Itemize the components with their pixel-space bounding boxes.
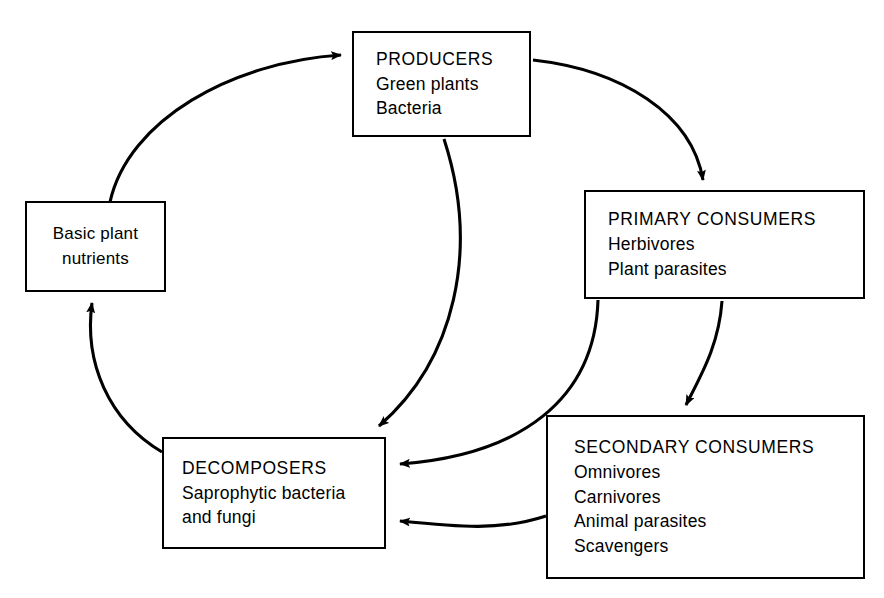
- node-secondary-consumers-line-3: Carnivores: [574, 485, 855, 510]
- node-primary-consumers-line-3: Plant parasites: [608, 257, 855, 282]
- node-primary-consumers: PRIMARY CONSUMERS Herbivores Plant paras…: [584, 190, 865, 299]
- node-secondary-consumers-lines: SECONDARY CONSUMERS Omnivores Carnivores…: [548, 435, 863, 559]
- node-decomposers-line-3: and fungi: [182, 505, 376, 530]
- node-basic-plant-nutrients: Basic plant nutrients: [25, 201, 166, 292]
- node-primary-consumers-line-1: PRIMARY CONSUMERS: [608, 207, 855, 232]
- node-decomposers-line-2: Saprophytic bacteria: [182, 481, 376, 506]
- node-producers-lines: PRODUCERS Green plants Bacteria: [354, 47, 529, 122]
- node-basic-plant-nutrients-line-1: Basic plant: [27, 222, 164, 246]
- arrow-producers-to-decomposers: [379, 139, 460, 426]
- node-decomposers-line-1: DECOMPOSERS: [182, 456, 376, 481]
- node-producers-line-1: PRODUCERS: [376, 47, 521, 72]
- node-producers-line-2: Green plants: [376, 72, 521, 97]
- node-basic-plant-nutrients-lines: Basic plant nutrients: [27, 222, 164, 270]
- node-primary-consumers-line-2: Herbivores: [608, 232, 855, 257]
- arrow-nutrients-to-producers: [110, 55, 341, 202]
- node-primary-consumers-lines: PRIMARY CONSUMERS Herbivores Plant paras…: [586, 207, 863, 282]
- node-secondary-consumers-line-2: Omnivores: [574, 460, 855, 485]
- arrow-primary-to-secondary: [686, 301, 722, 405]
- node-basic-plant-nutrients-line-2: nutrients: [27, 247, 164, 271]
- node-decomposers-lines: DECOMPOSERS Saprophytic bacteria and fun…: [164, 456, 384, 531]
- nutrient-cycle-diagram: PRODUCERS Green plants Bacteria PRIMARY …: [0, 0, 884, 598]
- node-decomposers: DECOMPOSERS Saprophytic bacteria and fun…: [162, 437, 386, 549]
- node-producers-line-3: Bacteria: [376, 96, 521, 121]
- node-secondary-consumers-line-1: SECONDARY CONSUMERS: [574, 435, 855, 460]
- node-secondary-consumers-line-4: Animal parasites: [574, 509, 855, 534]
- arrow-secondary-to-decomposers: [400, 516, 546, 526]
- arrow-decomposers-to-nutrients: [90, 303, 162, 452]
- arrow-producers-to-primary: [533, 60, 703, 180]
- node-producers: PRODUCERS Green plants Bacteria: [352, 31, 531, 137]
- node-secondary-consumers: SECONDARY CONSUMERS Omnivores Carnivores…: [546, 415, 865, 579]
- node-secondary-consumers-line-5: Scavengers: [574, 534, 855, 559]
